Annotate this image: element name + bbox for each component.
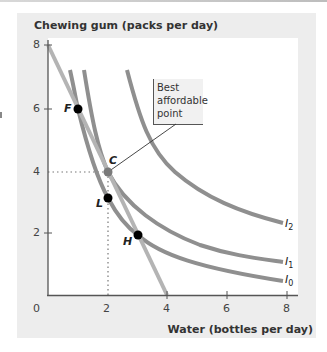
point-f (74, 105, 83, 114)
y-axis-title: Chewing gum (packs per day) (34, 19, 218, 32)
x-tick-label-4: 4 (163, 302, 170, 315)
origin-label: 0 (33, 302, 40, 315)
point-label-h: H (123, 235, 132, 248)
x-tick-label-2: 2 (103, 302, 110, 315)
point-l (104, 194, 113, 203)
x-tick-label-6: 6 (223, 302, 230, 315)
indifference-curve-i2 (127, 70, 283, 223)
point-h (134, 231, 143, 240)
chart-svg (0, 0, 327, 352)
curve-label-i2: I2 (285, 217, 293, 232)
point-c-best-affordable (104, 168, 113, 177)
y-tick-label-4: 4 (33, 165, 40, 178)
point-label-c: C (109, 154, 117, 167)
point-label-f: F (64, 102, 72, 115)
point-label-l: L (96, 197, 103, 210)
y-tick-label-2: 2 (33, 226, 40, 239)
y-tick-label-6: 6 (33, 102, 40, 115)
x-axis-title: Water (bottles per day) (168, 323, 313, 336)
curve-label-i1: I1 (285, 255, 293, 270)
x-tick-label-8: 8 (283, 302, 290, 315)
curve-label-i0: I0 (285, 273, 293, 288)
y-tick-label-8: 8 (33, 38, 40, 51)
